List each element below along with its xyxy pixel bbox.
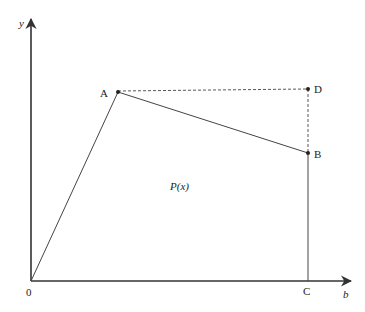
point-a-label: A xyxy=(100,87,108,99)
point-c-label: C xyxy=(303,285,310,297)
segment-oa xyxy=(31,92,118,281)
point-d-label: D xyxy=(314,83,322,95)
origin-label: 0 xyxy=(26,286,32,298)
point-d-marker xyxy=(306,87,310,91)
point-a-marker xyxy=(116,90,120,94)
point-b-marker xyxy=(306,151,310,155)
segment-ad-dashed xyxy=(118,89,308,91)
y-axis-label: y xyxy=(18,17,24,29)
segment-ab xyxy=(118,92,308,153)
diagram-figure: y b 0 A D B C P(x) xyxy=(0,0,365,312)
region-label: P(x) xyxy=(169,180,189,193)
point-b-label: B xyxy=(314,148,321,160)
x-axis-label: b xyxy=(343,288,349,300)
